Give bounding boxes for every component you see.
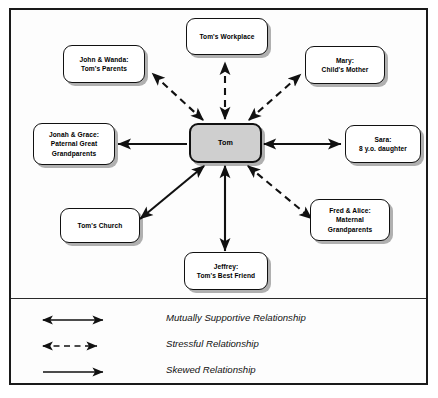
node-jeffrey[interactable]: Jeffrey: Tom's Best Friend — [184, 252, 268, 290]
legend: Mutually Supportive Relationship Stressf… — [11, 303, 426, 383]
legend-sample-mutually-supportive — [37, 307, 157, 333]
node-parents-label: John & Wanda: Tom's Parents — [67, 55, 141, 74]
node-workplace[interactable]: Tom's Workplace — [186, 18, 268, 55]
legend-label-mutually-supportive: Mutually Supportive Relationship — [166, 312, 306, 323]
node-tom-center[interactable]: Tom — [189, 123, 262, 163]
legend-sample-stressful — [37, 333, 157, 359]
node-church[interactable]: Tom's Church — [60, 208, 140, 243]
legend-divider — [11, 298, 426, 299]
ecomap-diagram: Tom's Workplace John & Wanda: Tom's Pare… — [0, 0, 438, 398]
node-mary[interactable]: Mary: Child's Mother — [305, 46, 385, 84]
legend-label-skewed: Skewed Relationship — [166, 364, 256, 375]
node-sara-label: Sara: 8 y.o. daughter — [349, 135, 417, 154]
legend-row-stressful: Stressful Relationship — [11, 333, 426, 359]
node-maternal-grandparents-label: Fred & Alice: Maternal Grandparents — [314, 206, 386, 234]
legend-row-skewed: Skewed Relationship — [11, 359, 426, 385]
node-church-label: Tom's Church — [64, 221, 136, 230]
node-jeffrey-label: Jeffrey: Tom's Best Friend — [188, 262, 264, 281]
node-paternal-great-grandparents[interactable]: Jonah & Grace: Paternal Great Grandparen… — [33, 123, 115, 165]
node-mary-label: Mary: Child's Mother — [309, 56, 381, 75]
legend-label-stressful: Stressful Relationship — [166, 338, 259, 349]
node-tom-label: Tom — [194, 138, 257, 148]
node-sara[interactable]: Sara: 8 y.o. daughter — [345, 125, 421, 163]
node-maternal-grandparents[interactable]: Fred & Alice: Maternal Grandparents — [310, 199, 390, 241]
node-workplace-label: Tom's Workplace — [190, 32, 264, 41]
legend-row-mutually-supportive: Mutually Supportive Relationship — [11, 307, 426, 333]
node-paternal-great-grandparents-label: Jonah & Grace: Paternal Great Grandparen… — [37, 130, 111, 158]
legend-sample-skewed — [37, 359, 157, 385]
node-parents[interactable]: John & Wanda: Tom's Parents — [63, 45, 145, 83]
